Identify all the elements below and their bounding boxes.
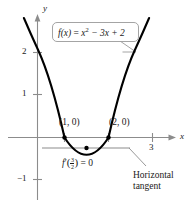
note-line-1: Horizontal bbox=[133, 170, 174, 181]
point-label-1-0: (1, 0) bbox=[59, 118, 80, 128]
y-axis-arrow-icon bbox=[35, 14, 41, 22]
y-tick-label-2: 2 bbox=[22, 47, 27, 56]
y-tick-label-minus-1: −1 bbox=[17, 174, 27, 183]
y-tick-label-1: 1 bbox=[22, 89, 27, 98]
graph-figure: y x 2 1 −1 3 (1, 0) (2, 0) f(x) = x2 − 3… bbox=[0, 0, 195, 203]
point-label-2-0: (2, 0) bbox=[109, 118, 130, 128]
x-axis-label: x bbox=[180, 132, 184, 141]
formula-equals: = bbox=[71, 28, 81, 38]
y-axis-label: y bbox=[43, 4, 47, 13]
root-point-1-marker bbox=[62, 135, 66, 139]
fraction-denominator: 2 bbox=[70, 164, 74, 171]
derivative-fraction: 32 bbox=[70, 157, 74, 171]
x-tick-label-3: 3 bbox=[149, 143, 154, 152]
horizontal-tangent-note: Horizontal tangent bbox=[133, 170, 174, 192]
annotation-leader-line bbox=[129, 148, 146, 166]
formula-rest: − 3x + 2 bbox=[89, 28, 125, 38]
derivative-suffix: = 0 bbox=[78, 158, 93, 168]
derivative-label: f′(32) = 0 bbox=[62, 157, 93, 171]
vertex-point-marker bbox=[84, 146, 88, 150]
fraction-numerator: 3 bbox=[70, 157, 74, 165]
note-line-2: tangent bbox=[133, 181, 174, 192]
root-point-2-marker bbox=[106, 135, 110, 139]
function-formula-label: f(x) = x2 − 3x + 2 bbox=[58, 27, 125, 39]
formula-arg: (x) bbox=[61, 28, 72, 38]
x-axis-arrow-icon bbox=[169, 135, 177, 141]
